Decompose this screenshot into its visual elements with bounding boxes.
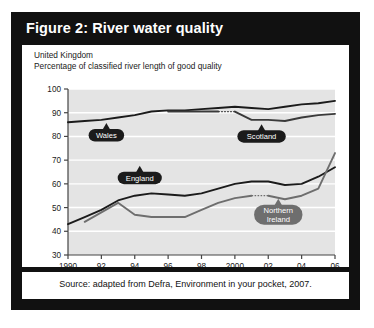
figure-frame: Figure 2: River water quality United Kin… <box>11 12 360 310</box>
plot-area: 100908070605040301990929496982000020406W… <box>22 45 349 267</box>
figure-title: Figure 2: River water quality <box>26 20 223 36</box>
x-tick-label: 98 <box>197 262 207 267</box>
x-tick-label: 92 <box>97 262 107 267</box>
line-chart: 100908070605040301990929496982000020406W… <box>22 45 349 267</box>
callout-label: Scotland <box>247 132 277 141</box>
x-tick-label: 1990 <box>59 262 78 267</box>
x-tick-label: 96 <box>164 262 174 267</box>
chart-panel: United Kingdom Percentage of classified … <box>22 45 349 267</box>
x-tick-label: 06 <box>330 262 340 267</box>
callout-label: England <box>126 174 154 183</box>
y-tick-label: 30 <box>52 251 62 260</box>
callout-label: Ireland <box>267 215 290 224</box>
x-tick-label: 94 <box>130 262 140 267</box>
y-tick-label: 40 <box>52 227 62 236</box>
plot-background <box>68 89 335 255</box>
y-tick-label: 50 <box>52 204 62 213</box>
callout-label: Wales <box>96 131 117 140</box>
x-tick-label: 02 <box>264 262 274 267</box>
y-tick-label: 60 <box>52 180 62 189</box>
x-tick-label: 04 <box>297 262 307 267</box>
y-tick-label: 90 <box>52 109 62 118</box>
source-box: Source: adapted from Defra, Environment … <box>22 272 349 299</box>
x-tick-label: 2000 <box>226 262 245 267</box>
y-tick-label: 70 <box>52 156 62 165</box>
y-tick-label: 80 <box>52 132 62 141</box>
y-tick-label: 100 <box>47 85 61 94</box>
source-text: Source: adapted from Defra, Environment … <box>22 279 349 289</box>
